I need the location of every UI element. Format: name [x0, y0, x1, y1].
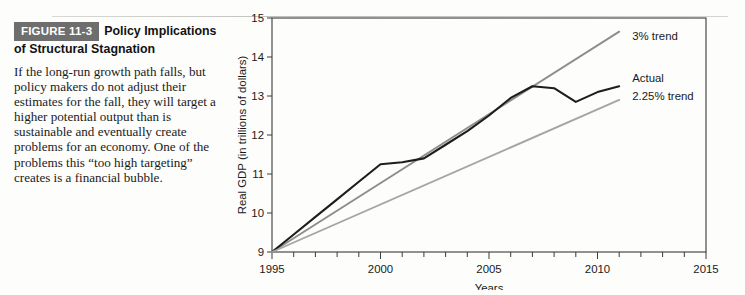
x-tick-label: 2010	[585, 263, 610, 275]
series-lines	[272, 32, 619, 252]
figure-caption-column: FIGURE 11-3Policy Implications of Struct…	[14, 22, 230, 185]
figure-title-line-1: Policy Implications	[104, 24, 216, 38]
figure-container: FIGURE 11-3Policy Implications of Struct…	[0, 0, 745, 295]
series-labels: 3% trendActual2.25% trend	[632, 30, 693, 102]
series-line-2-25-trend	[272, 100, 619, 252]
y-tick-label: 12	[251, 129, 264, 141]
y-axis: 9101112131415	[251, 12, 272, 258]
x-axis: 19952000200520102015	[259, 252, 718, 275]
y-tick-label: 11	[252, 168, 264, 180]
figure-heading: FIGURE 11-3Policy Implications of Struct…	[14, 22, 230, 57]
series-label-actual: Actual	[632, 72, 664, 84]
series-label-3-trend: 3% trend	[632, 30, 678, 42]
series-line-3-trend	[272, 32, 619, 252]
series-label-2-25-trend: 2.25% trend	[632, 90, 693, 102]
figure-caption-text: If the long-run growth path falls, but p…	[14, 64, 219, 185]
x-tick-label: 2000	[368, 263, 393, 275]
x-tick-label: 2015	[693, 263, 718, 275]
x-tick-label: 1995	[259, 263, 284, 275]
y-tick-label: 15	[251, 12, 264, 24]
y-axis-title: Real GDP (in trillions of dollars)	[236, 55, 248, 214]
figure-title-line-2: of Structural Stagnation	[14, 42, 230, 57]
y-tick-label: 9	[258, 246, 264, 258]
chart-panel: 9101112131415 19952000200520102015 3% tr…	[232, 8, 732, 290]
series-line-actual	[272, 86, 619, 252]
line-chart: 9101112131415 19952000200520102015 3% tr…	[232, 8, 732, 290]
y-tick-label: 13	[251, 90, 264, 102]
plot-frame	[272, 18, 706, 252]
y-tick-label: 14	[251, 51, 264, 63]
figure-number-badge: FIGURE 11-3	[14, 22, 99, 41]
y-tick-label: 10	[251, 207, 264, 219]
x-axis-title: Years	[475, 282, 504, 290]
x-tick-label: 2005	[476, 263, 501, 275]
